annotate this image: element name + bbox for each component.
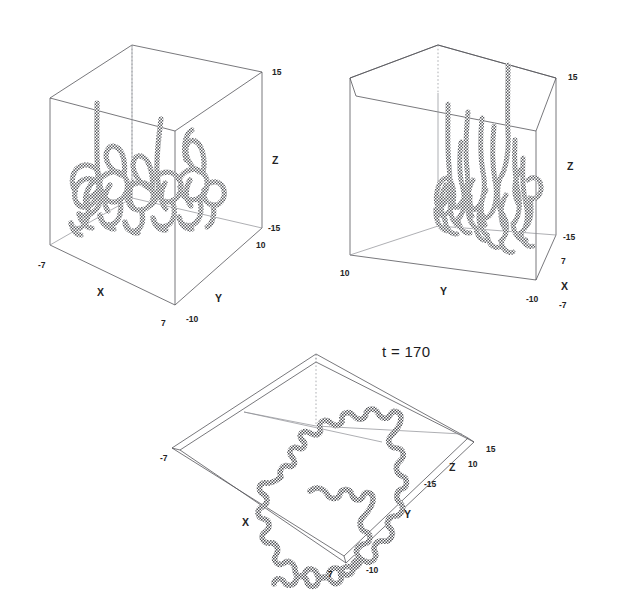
tick-x-max: 7: [328, 569, 333, 579]
tick-y-max: 10: [256, 240, 266, 250]
tick-x-min: -7: [38, 260, 46, 270]
trajectory-side-view: [436, 65, 541, 252]
figure-title: t = 170: [382, 343, 430, 360]
figure-root: 15 -15 10 -7 7 -10 X Y Z: [0, 0, 629, 593]
trajectory-front-view: [71, 103, 224, 235]
plot-panel-front-xz: 15 -15 10 -7 7 -10 X Y Z: [0, 30, 320, 345]
axis-label-x: X: [561, 280, 568, 292]
tick-z-min: -15: [424, 479, 437, 489]
tick-x-max: 7: [161, 318, 166, 328]
tick-z-ten: 10: [468, 459, 478, 469]
axis-label-x: X: [242, 516, 249, 528]
plot-panel-top-xy: 15 10 -15 -7 7 -10 X Y Z: [150, 330, 550, 593]
tick-z-max: 15: [272, 67, 282, 77]
axis-labels-top-view: 15 10 -15 -7 7 -10 X Y Z: [160, 444, 496, 579]
axis-label-z: Z: [567, 160, 574, 172]
tick-y-min: -10: [186, 314, 199, 324]
axis-label-z: Z: [449, 461, 456, 473]
plot-panel-side-yz: 15 -15 7 -7 10 -10 X Y Z: [318, 30, 629, 345]
tick-x-max: 7: [561, 256, 566, 266]
tick-z-min: -15: [268, 223, 281, 233]
tick-x-min: -7: [160, 453, 168, 463]
axis-label-z: Z: [272, 154, 279, 166]
axis-label-x: X: [97, 286, 104, 298]
top-view-svg: 15 10 -15 -7 7 -10 X Y Z: [150, 330, 550, 593]
side-view-svg: 15 -15 7 -7 10 -10 X Y Z: [318, 30, 629, 345]
tick-y-max: 10: [340, 268, 350, 278]
box-wireframe-top-view: [172, 354, 474, 563]
trajectory-top-view: [258, 409, 406, 587]
tick-z-min: -15: [563, 232, 576, 242]
tick-z-max: 15: [486, 444, 496, 454]
tick-x-min: -7: [559, 300, 567, 310]
axis-label-y: Y: [215, 292, 222, 304]
axis-label-y: Y: [404, 508, 411, 520]
tick-y-min: -10: [526, 294, 539, 304]
tick-y-min: -10: [366, 565, 379, 575]
axis-label-y: Y: [440, 285, 447, 297]
tick-z-max: 15: [568, 72, 578, 82]
front-view-svg: 15 -15 10 -7 7 -10 X Y Z: [0, 30, 320, 345]
